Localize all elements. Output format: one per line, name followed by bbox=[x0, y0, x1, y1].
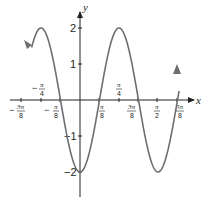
svg-text:π: π bbox=[40, 81, 44, 89]
y-tick-label: 1 bbox=[70, 58, 76, 70]
svg-text:4: 4 bbox=[40, 90, 44, 97]
svg-text:4: 4 bbox=[117, 90, 121, 97]
x-axis-label: x bbox=[195, 94, 201, 106]
svg-text:−: − bbox=[44, 105, 49, 115]
svg-text:8: 8 bbox=[178, 112, 182, 119]
svg-text:π: π bbox=[155, 103, 159, 111]
svg-text:π: π bbox=[117, 81, 121, 89]
right-end-arrow-icon bbox=[173, 64, 181, 74]
svg-text:8: 8 bbox=[130, 112, 134, 119]
svg-text:3π: 3π bbox=[16, 103, 25, 111]
svg-text:−: − bbox=[9, 105, 14, 115]
graph: x y 2 1 −1 −2 − 3π 8 − π 4 − π 8 bbox=[0, 0, 204, 202]
svg-text:3π: 3π bbox=[127, 103, 136, 111]
svg-text:8: 8 bbox=[54, 112, 58, 119]
svg-text:8: 8 bbox=[100, 112, 104, 119]
svg-text:−: − bbox=[32, 83, 37, 93]
left-end-arrow-icon bbox=[24, 40, 32, 49]
y-tick-label: 2 bbox=[70, 22, 76, 34]
svg-text:8: 8 bbox=[19, 112, 23, 119]
svg-text:π: π bbox=[54, 103, 58, 111]
svg-text:2: 2 bbox=[155, 112, 159, 119]
y-tick-label: −2 bbox=[64, 166, 77, 178]
y-axis-label: y bbox=[82, 1, 88, 13]
svg-text:π: π bbox=[100, 103, 104, 111]
